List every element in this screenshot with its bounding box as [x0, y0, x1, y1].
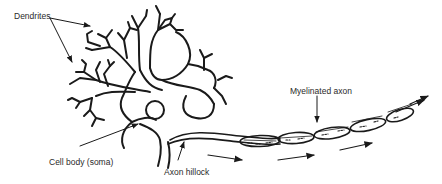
- label-axon-hillock: Axon hillock: [164, 167, 209, 177]
- cell-body: [121, 32, 232, 168]
- dendrites-left: [68, 60, 150, 126]
- myelin-sheath: [240, 104, 415, 147]
- signal-direction-arrows: [208, 96, 428, 160]
- label-myelinated-axon: Myelinated axon: [290, 86, 352, 96]
- label-cell-body: Cell body (soma): [49, 157, 113, 167]
- label-dendrites: Dendrites: [14, 11, 50, 21]
- axon: [168, 133, 280, 145]
